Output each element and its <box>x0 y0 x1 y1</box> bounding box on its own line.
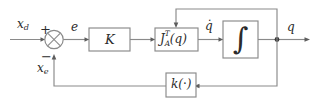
feedback-label-prefix: k( <box>171 77 183 91</box>
feedback-subscript: e <box>44 66 49 76</box>
jacobian-argument: (q) <box>170 32 187 46</box>
minus-sign: − <box>41 50 52 63</box>
arrow-into-jacobian <box>151 37 156 42</box>
reference-subscript: d <box>24 22 29 32</box>
signal-label-error: e <box>71 21 78 33</box>
jacobian-superscript: T <box>165 30 170 37</box>
feedback-label-suffix: ) <box>187 77 192 91</box>
arrow-into-gain <box>85 37 90 42</box>
integrator-block-label: ∫ <box>233 24 249 54</box>
signal-label-feedback: xe <box>37 62 49 75</box>
block-diagram: K JTA(q) ∫ k(·) xd e q̇ q xe + − <box>0 0 316 110</box>
wire-feedback-to-sum <box>54 56 166 86</box>
arrow-into-sum-bottom <box>52 54 57 60</box>
arrow-into-jacobian-top <box>174 23 179 29</box>
signal-label-reference: xd <box>17 18 29 31</box>
plus-sign: + <box>40 23 51 36</box>
jacobian-subscript: A <box>165 40 170 47</box>
gain-block-label: K <box>105 33 115 46</box>
arrow-into-integrator <box>219 37 224 42</box>
arrow-output <box>305 37 311 42</box>
jacobian-symbol: JTA <box>160 33 165 45</box>
signal-label-joint-position: q <box>287 21 295 33</box>
signal-label-joint-velocity: q̇ <box>205 20 213 32</box>
jacobian-block-label: JTA(q) <box>160 33 187 45</box>
feedback-block-label: k(·) <box>171 78 191 90</box>
